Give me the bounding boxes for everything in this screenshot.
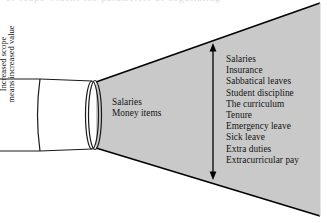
list-item: Sick leave xyxy=(226,132,299,143)
inner-label-group: Salaries Money items xyxy=(112,97,161,119)
list-item: The curriculum xyxy=(226,99,299,110)
scope-caption-line-2: means increased value xyxy=(8,0,16,128)
scope-arrow-caption: Increased scope means increased value xyxy=(0,0,14,128)
list-item: Emergency leave xyxy=(226,121,299,132)
list-item: Insurance xyxy=(226,65,299,76)
inner-label-item: Money items xyxy=(112,108,161,119)
list-item: Student discipline xyxy=(226,88,299,99)
outcome-list-group: Salaries Insurance Sabbatical leaves Stu… xyxy=(226,54,299,166)
list-item: Extracurricular pay xyxy=(226,155,299,166)
list-item: Sabbatical leaves xyxy=(226,76,299,87)
inner-label-item: Salaries xyxy=(112,97,161,108)
list-item: Extra duties xyxy=(226,144,299,155)
scope-arrow-caption-rotated: Increased scope means increased value xyxy=(0,0,14,128)
list-item: Salaries xyxy=(226,54,299,65)
list-item: Tenure xyxy=(226,110,299,121)
funnel-scope-diagram: of scope widens the parameters of negoti… xyxy=(0,0,327,223)
